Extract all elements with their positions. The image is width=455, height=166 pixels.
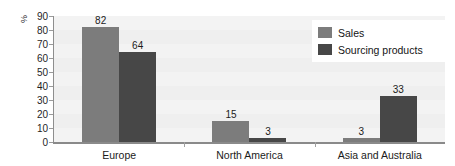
y-axis-tick-labels: 9080706050403020100: [26, 11, 48, 147]
legend-swatch-icon: [318, 27, 332, 38]
chart-legend: SalesSourcing products: [312, 20, 446, 62]
bar-group-north-america: 153: [184, 16, 314, 142]
y-axis-tick-mark: [49, 58, 53, 59]
y-axis-tick-mark: [49, 86, 53, 87]
bar-group-europe: 8264: [54, 16, 184, 142]
y-axis-tick-mark: [49, 30, 53, 31]
bar-sales-north-america[interactable]: [212, 121, 249, 142]
y-axis-tick-70: 70: [26, 39, 48, 50]
y-axis-tick-40: 40: [26, 81, 48, 92]
y-axis-tick-90: 90: [26, 11, 48, 22]
bar-value-label: 64: [119, 40, 156, 51]
x-axis-category-north-america: North America: [184, 149, 314, 162]
bar-value-label: 3: [249, 126, 286, 137]
legend-label: Sourcing products: [338, 44, 423, 56]
y-axis-tick-10: 10: [26, 123, 48, 134]
legend-item-sales[interactable]: Sales: [318, 24, 440, 41]
y-axis-tick-mark: [49, 44, 53, 45]
legend-label: Sales: [338, 27, 364, 39]
bar-sourcing-products-asia-and-australia[interactable]: [380, 96, 417, 142]
bar-value-label: 3: [343, 126, 380, 137]
x-axis-category-asia-and-australia: Asia and Australia: [315, 149, 445, 162]
x-axis-line: [53, 142, 445, 144]
bar-value-label: 15: [212, 109, 249, 120]
y-axis-tick-mark: [49, 142, 53, 143]
y-axis-tick-20: 20: [26, 109, 48, 120]
y-axis-tick-mark: [49, 114, 53, 115]
bar-sales-europe[interactable]: [82, 27, 119, 142]
y-axis-tick-80: 80: [26, 25, 48, 36]
x-axis-group-tick: [315, 142, 316, 147]
y-axis-tick-60: 60: [26, 53, 48, 64]
y-axis-tick-mark: [49, 16, 53, 17]
bar-chart: % 9080706050403020100 8264153333 SalesSo…: [0, 0, 455, 166]
y-axis-tick-mark: [49, 100, 53, 101]
legend-swatch-icon: [318, 44, 332, 55]
y-axis-tick-mark: [49, 128, 53, 129]
y-axis-tick-mark: [49, 72, 53, 73]
bar-sourcing-products-europe[interactable]: [119, 52, 156, 142]
y-axis-tick-50: 50: [26, 67, 48, 78]
bar-value-label: 33: [380, 84, 417, 95]
y-axis-tick-0: 0: [26, 137, 48, 148]
y-axis-tick-30: 30: [26, 95, 48, 106]
x-axis-category-europe: Europe: [54, 149, 184, 162]
x-axis-group-tick: [184, 142, 185, 147]
bar-value-label: 82: [82, 15, 119, 26]
legend-item-sourcing-products[interactable]: Sourcing products: [318, 41, 440, 58]
